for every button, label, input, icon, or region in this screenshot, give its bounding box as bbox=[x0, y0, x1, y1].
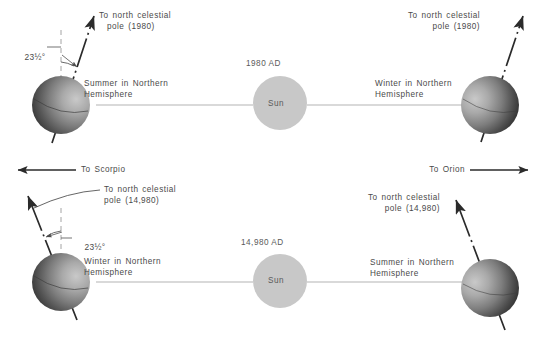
caption-leader-line bbox=[34, 190, 100, 208]
season-label-14980-left-line1: Winter in Northern bbox=[84, 256, 161, 267]
axis-caption-1980-left-line2: pole (1980) bbox=[107, 21, 155, 32]
season-label-14980-right-line2: Hemisphere bbox=[370, 268, 419, 279]
axis-caption-1980-left-line1: To north celestial bbox=[99, 10, 171, 21]
precession-diagram: To north celestial pole (1980) 23½° Summ… bbox=[0, 0, 536, 345]
earth-sphere bbox=[461, 76, 519, 134]
axis-caption-14980-right-line1: To north celestial bbox=[300, 192, 440, 203]
sun-label-1980: Sun bbox=[268, 99, 284, 108]
season-label-1980-left-line1: Summer in Northern bbox=[84, 78, 168, 89]
tilt-arc-14980-left bbox=[47, 231, 61, 236]
tilt-angle-value: 23½° bbox=[25, 52, 46, 62]
epoch-label-14980: 14,980 AD bbox=[241, 238, 284, 247]
epoch-label-1980: 1980 AD bbox=[246, 59, 281, 68]
earth-14980-right bbox=[456, 200, 519, 330]
season-label-1980-right-line1: Winter in Northern bbox=[375, 78, 452, 89]
earth-1980-right bbox=[461, 16, 523, 142]
sun-label-14980: Sun bbox=[268, 276, 284, 285]
to-scorpio-label: To Scorpio bbox=[81, 164, 125, 175]
tilt-angle-1980-left: 23½° bbox=[14, 42, 45, 72]
earth-sphere bbox=[32, 76, 90, 134]
season-label-14980-left-line2: Hemisphere bbox=[84, 267, 133, 278]
axis-caption-14980-left-line1: To north celestial bbox=[104, 184, 176, 195]
tilt-angle-value: 23½° bbox=[85, 242, 106, 252]
season-label-14980-right-line1: Summer in Northern bbox=[370, 257, 454, 268]
axis-caption-14980-left-line2: pole (14,980) bbox=[104, 195, 159, 206]
axis-caption-1980-right-line1: To north celestial bbox=[340, 10, 480, 21]
season-label-1980-left-line2: Hemisphere bbox=[84, 89, 133, 100]
axis-caption-1980-right-line2: pole (1980) bbox=[340, 21, 480, 32]
axis-caption-14980-right-line2: pole (14,980) bbox=[300, 203, 440, 214]
to-orion-label: To Orion bbox=[375, 164, 465, 175]
season-label-1980-right-line2: Hemisphere bbox=[375, 89, 424, 100]
